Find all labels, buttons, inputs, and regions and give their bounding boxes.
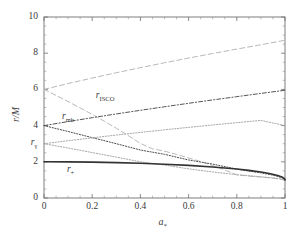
curve-r-ISCO-retrograde — [44, 40, 285, 89]
xtick-label: 0.2 — [80, 201, 104, 211]
ytick-label: 8 — [0, 47, 38, 57]
curve-r-mb-prograde — [44, 126, 285, 180]
ytick-label: 10 — [0, 11, 38, 21]
annotation-sub: mb — [66, 116, 74, 123]
xtick-label: 0.6 — [177, 201, 201, 211]
ytick-label: 2 — [0, 156, 38, 166]
curve-label-rgamma: rγ — [31, 137, 38, 149]
chart-figure: 0 2 4 6 8 10 0 0.2 0.4 0.6 0.8 1 r/M a* … — [0, 0, 303, 237]
curve-r-+-horizon — [44, 162, 285, 180]
x-axis-title-sub: * — [164, 222, 168, 230]
curve-r-gamma-retrograde — [44, 120, 285, 143]
curve-label-rplus: r+ — [67, 164, 74, 176]
xtick-label: 0 — [32, 201, 56, 211]
y-axis-title: r/M — [10, 107, 21, 122]
ytick-label: 6 — [0, 83, 38, 93]
curve-label-rmb: rmb — [62, 111, 74, 123]
xtick-label: 0.4 — [128, 201, 152, 211]
xtick-label: 0.8 — [225, 201, 249, 211]
x-axis-title: a* — [159, 216, 168, 230]
y-axis-title-text: r/M — [10, 107, 21, 122]
xtick-label: 1 — [273, 201, 297, 211]
annotation-sub: + — [71, 169, 75, 176]
annotation-sub: γ — [34, 142, 37, 149]
curve-label-risco: rISCO — [96, 90, 115, 102]
data-curves — [44, 40, 285, 180]
annotation-sub: ISCO — [100, 95, 115, 102]
